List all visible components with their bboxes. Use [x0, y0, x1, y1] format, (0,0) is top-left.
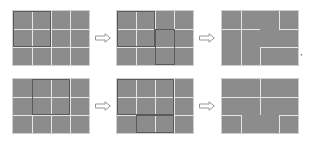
- grid-line-vertical: [70, 11, 71, 65]
- grid-line-horizontal: [13, 115, 89, 116]
- right-arrow-icon: [95, 33, 111, 43]
- right-arrow-icon: [95, 101, 111, 111]
- right-arrow-icon: [199, 33, 215, 43]
- grid-line-vertical: [279, 11, 280, 29]
- grid-line-vertical: [241, 47, 242, 65]
- grid-line-horizontal: [279, 115, 298, 116]
- grid-line-vertical: [279, 115, 280, 133]
- highlight-frame: [32, 79, 70, 115]
- grid-step-2-2: [117, 79, 193, 133]
- grid-step-1-2: [117, 11, 193, 65]
- highlight-frame: [117, 11, 155, 47]
- grid-line-vertical: [70, 79, 71, 133]
- right-arrow-icon: [199, 101, 215, 111]
- highlight-frame: [155, 29, 175, 65]
- grid-line-horizontal: [222, 115, 241, 116]
- grid-line-vertical: [51, 11, 52, 65]
- grid-line-horizontal: [222, 29, 260, 30]
- grid-line-horizontal: [13, 47, 89, 48]
- grid-step-1-3: [222, 11, 298, 65]
- grid-line-vertical: [174, 79, 175, 133]
- highlight-frame: [13, 11, 51, 47]
- grid-step-1-1: [13, 11, 89, 65]
- grid-line-vertical: [241, 115, 242, 133]
- highlight-frame: [117, 79, 174, 115]
- grid-step-2-3: [222, 79, 298, 133]
- grid-line-vertical: [260, 47, 261, 65]
- grid-line-horizontal: [222, 97, 298, 98]
- highlight-frame: [136, 115, 174, 133]
- grid-line-horizontal: [260, 47, 298, 48]
- grid-line-horizontal: [279, 29, 298, 30]
- trailing-comma: ,: [300, 48, 303, 57]
- grid-step-2-1: [13, 79, 89, 133]
